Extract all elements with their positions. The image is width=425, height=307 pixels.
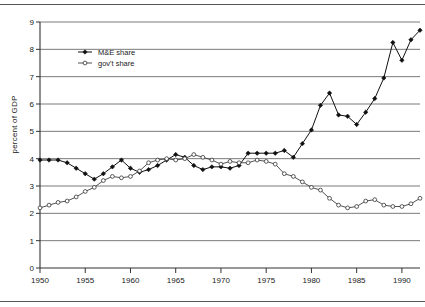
- data-point: [373, 198, 377, 202]
- data-point: [264, 151, 268, 155]
- figure-container: percent of GDP 0123456789 19501955196019…: [0, 0, 425, 307]
- data-point: [192, 153, 196, 157]
- data-point: [74, 166, 78, 170]
- data-point: [65, 199, 69, 203]
- data-point: [228, 166, 232, 170]
- data-point: [138, 169, 142, 173]
- data-point: [355, 205, 359, 209]
- data-point: [83, 172, 87, 176]
- data-point: [273, 162, 277, 166]
- data-point: [155, 163, 159, 167]
- data-point: [319, 188, 323, 192]
- data-point: [92, 177, 96, 181]
- y-tick-group: 0123456789: [30, 18, 40, 273]
- data-point: [418, 196, 422, 200]
- data-point: [255, 151, 259, 155]
- data-point: [201, 167, 205, 171]
- data-point: [47, 203, 51, 207]
- data-point: [156, 158, 160, 162]
- y-tick-label-9: 9: [30, 18, 35, 27]
- data-point: [183, 157, 187, 161]
- data-point: [120, 176, 124, 180]
- y-tick-label-1: 1: [30, 237, 35, 246]
- data-point: [400, 205, 404, 209]
- x-tick-label-1980: 1980: [303, 276, 321, 285]
- series-govt-share: [38, 153, 422, 210]
- data-point: [237, 161, 241, 165]
- data-point: [400, 58, 404, 62]
- data-point: [364, 199, 368, 203]
- x-tick-label-1955: 1955: [76, 276, 94, 285]
- data-point: [101, 179, 105, 183]
- y-tick-label-4: 4: [30, 155, 35, 164]
- data-point: [228, 160, 232, 164]
- data-point: [346, 206, 350, 210]
- data-point: [56, 201, 60, 205]
- data-point: [38, 206, 42, 210]
- y-tick-label-8: 8: [30, 45, 35, 54]
- data-point: [310, 185, 314, 189]
- y-tick-label-7: 7: [30, 73, 35, 82]
- data-point: [65, 161, 69, 165]
- data-point: [291, 175, 295, 179]
- data-point: [129, 175, 133, 179]
- data-point: [174, 158, 178, 162]
- gridlines: [40, 22, 420, 241]
- data-point: [328, 196, 332, 200]
- y-tick-label-2: 2: [30, 209, 35, 218]
- y-tick-label-5: 5: [30, 127, 35, 136]
- data-point: [92, 185, 96, 189]
- y-tick-label-6: 6: [30, 100, 35, 109]
- data-point: [147, 161, 151, 165]
- data-point: [83, 190, 87, 194]
- data-point: [391, 205, 395, 209]
- y-tick-label-3: 3: [30, 182, 35, 191]
- data-point: [391, 40, 395, 44]
- x-tick-label-1975: 1975: [257, 276, 275, 285]
- legend-label-0: M&E share: [98, 48, 135, 57]
- x-tick-label-1960: 1960: [122, 276, 140, 285]
- x-tick-label-1970: 1970: [212, 276, 230, 285]
- data-point: [74, 195, 78, 199]
- data-point: [282, 172, 286, 176]
- x-tick-label-1985: 1985: [348, 276, 366, 285]
- data-point: [382, 203, 386, 207]
- data-point: [210, 165, 214, 169]
- data-point: [273, 151, 277, 155]
- x-tick-label-1950: 1950: [31, 276, 49, 285]
- data-point: [219, 162, 223, 166]
- series-line: [40, 30, 420, 179]
- series-layer: [38, 28, 422, 210]
- data-point: [146, 167, 150, 171]
- data-point: [110, 175, 114, 179]
- data-point: [83, 61, 87, 65]
- x-tick-group: 195019551960196519701975198019851990: [31, 268, 411, 285]
- chart-legend: M&E sharegov't share: [78, 48, 135, 68]
- data-point: [246, 161, 250, 165]
- data-point: [255, 158, 259, 162]
- data-point: [336, 113, 340, 117]
- data-point: [264, 160, 268, 164]
- data-point: [210, 158, 214, 162]
- line-chart: 0123456789 19501955196019651970197519801…: [0, 0, 425, 307]
- x-tick-label-1990: 1990: [393, 276, 411, 285]
- data-point: [409, 202, 413, 206]
- data-point: [201, 155, 205, 159]
- axis-lines: [40, 22, 420, 268]
- legend-label-1: gov't share: [98, 59, 134, 68]
- data-point: [337, 203, 341, 207]
- data-point: [83, 50, 87, 54]
- data-point: [165, 157, 169, 161]
- x-tick-label-1965: 1965: [167, 276, 185, 285]
- data-point: [300, 180, 304, 184]
- y-tick-label-0: 0: [30, 264, 35, 273]
- data-point: [174, 152, 178, 156]
